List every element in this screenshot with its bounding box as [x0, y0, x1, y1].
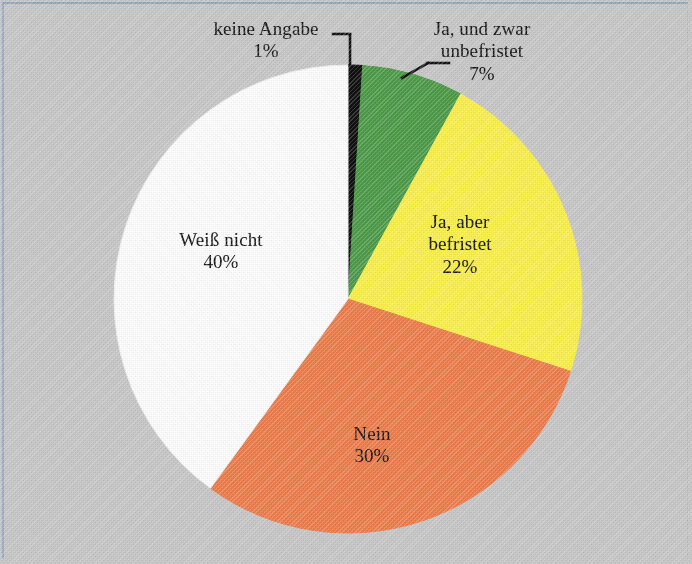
label-ja-unbefristet-title-2: unbefristet [392, 40, 572, 62]
label-ja-unbefristet-value: 7% [392, 63, 572, 85]
label-weiss-nicht-title: Weiß nicht [141, 229, 301, 251]
chart-page: keine Angabe 1% Ja, und zwar unbefristet… [0, 0, 692, 564]
label-ja-unbefristet: Ja, und zwar unbefristet 7% [392, 18, 572, 85]
label-nein: Nein 30% [312, 423, 432, 468]
label-keine-angabe: keine Angabe 1% [176, 18, 356, 63]
label-ja-befristet: Ja, aber befristet 22% [380, 211, 540, 278]
label-ja-befristet-value: 22% [380, 256, 540, 278]
label-weiss-nicht-value: 40% [141, 251, 301, 273]
label-weiss-nicht: Weiß nicht 40% [141, 229, 301, 274]
label-keine-angabe-value: 1% [176, 40, 356, 62]
label-ja-befristet-title-2: befristet [380, 233, 540, 255]
pie-chart [0, 0, 692, 564]
label-nein-title: Nein [312, 423, 432, 445]
label-ja-unbefristet-title-1: Ja, und zwar [392, 18, 572, 40]
label-ja-befristet-title-1: Ja, aber [380, 211, 540, 233]
label-keine-angabe-title: keine Angabe [176, 18, 356, 40]
label-nein-value: 30% [312, 445, 432, 467]
